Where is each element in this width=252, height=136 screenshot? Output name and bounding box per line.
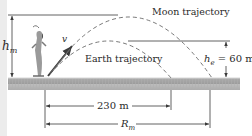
moon-trajectory-label: Moon trajectory [152, 6, 230, 17]
ground [8, 78, 240, 90]
golfer-figure [32, 26, 46, 76]
h-e-label: he = 60 m [204, 53, 252, 67]
diagram-canvas: hm v Moon trajectory Earth trajectory he… [0, 0, 252, 136]
earth-trajectory-label: Earth trajectory [85, 53, 163, 64]
velocity-label: v [62, 34, 67, 44]
moon-trajectory-curve [50, 17, 212, 78]
earth-range-label: 230 m [97, 100, 129, 111]
projectile-diagram: hm v Moon trajectory Earth trajectory he… [0, 0, 252, 136]
moon-range-label: Rm [120, 118, 136, 132]
h-m-label: hm [2, 39, 18, 55]
velocity-vector-highlight [50, 49, 70, 74]
